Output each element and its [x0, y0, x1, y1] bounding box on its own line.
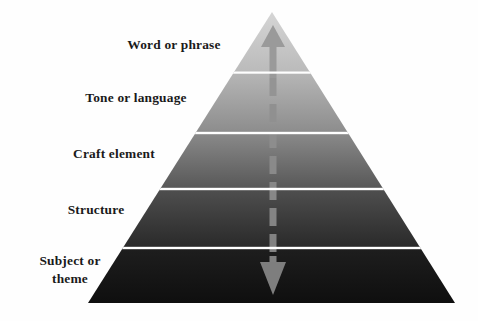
tier-label-subject-or-theme: Subject or theme [18, 252, 122, 288]
tier-label-word-or-phrase: Word or phrase [104, 36, 244, 54]
tier-divider-4 [80, 247, 464, 249]
arrow-dash-7 [270, 234, 277, 252]
arrow-dash-2 [270, 104, 277, 122]
tier-divider-2 [80, 132, 464, 134]
tier-divider-1 [80, 72, 464, 74]
tier-label-craft-element: Craft element [52, 145, 176, 163]
arrow-dash-1 [270, 78, 277, 96]
tier-label-structure: Structure [50, 201, 142, 219]
tier-label-tone-or-language: Tone or language [62, 89, 210, 107]
arrow-dash-6 [270, 208, 277, 226]
arrow-dash-5 [270, 182, 277, 200]
arrow-dash-4 [270, 156, 277, 174]
pyramid-diagram: Word or phrase Tone or language Craft el… [0, 0, 478, 321]
tier-divider-3 [80, 188, 464, 190]
